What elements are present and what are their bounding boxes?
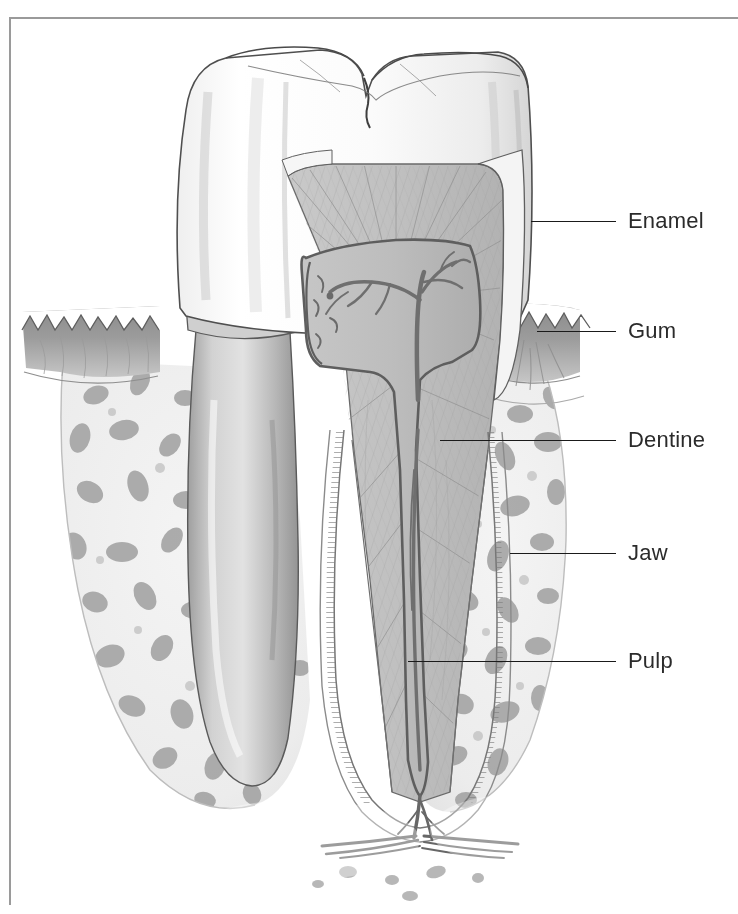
- leader-line-gum: [537, 331, 616, 332]
- label-text-dentine: Dentine: [628, 429, 705, 451]
- tooth-cross-section-illustration: [0, 0, 738, 914]
- leader-line-jaw: [510, 553, 616, 554]
- label-text-gum: Gum: [628, 320, 676, 342]
- leader-line-enamel: [531, 221, 616, 222]
- label-text-jaw: Jaw: [628, 542, 668, 564]
- figure-page: Enamel Gum Dentine Jaw Pulp: [0, 0, 738, 914]
- leader-line-pulp: [408, 661, 616, 662]
- label-text-enamel: Enamel: [628, 210, 704, 232]
- leader-line-dentine: [440, 440, 616, 441]
- gum-tissue-left: [22, 306, 160, 383]
- label-text-pulp: Pulp: [628, 650, 673, 672]
